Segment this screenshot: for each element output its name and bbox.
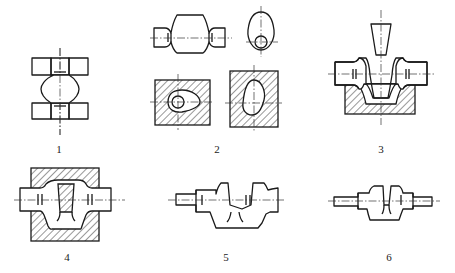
label-step-1: 1 [49, 143, 69, 155]
label-step-2: 2 [207, 143, 227, 155]
step-2-blocked-forging [150, 6, 282, 132]
label-step-6: 6 [379, 251, 399, 263]
step-4-closed-die [14, 168, 125, 241]
label-step-3: 3 [371, 143, 391, 155]
step-3-punch-piercing [328, 10, 434, 125]
step-1-preform [32, 48, 88, 135]
step-6-finished-crank [328, 186, 440, 220]
step-5-forged-throw [168, 183, 286, 228]
label-step-4: 4 [57, 251, 77, 263]
forging-process-diagram [0, 0, 455, 273]
label-step-5: 5 [216, 251, 236, 263]
